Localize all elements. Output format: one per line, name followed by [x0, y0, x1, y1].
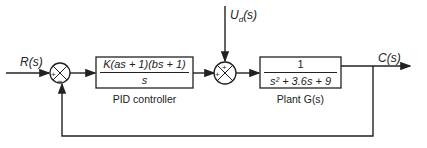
disturbance-label: Ud(s)	[230, 8, 257, 24]
block-diagram: R(s) + − K(as + 1)(bs + 1) s PID control…	[0, 0, 427, 148]
pid-controller-block: K(as + 1)(bs + 1) s PID controller	[96, 57, 193, 105]
controller-denominator: s	[142, 74, 148, 86]
summing-junction-1: + −	[50, 63, 70, 86]
controller-numerator: K(as + 1)(bs + 1)	[103, 58, 186, 70]
plant-denominator: s² + 3.6s + 9	[270, 75, 331, 87]
sum2-plus-left: +	[215, 70, 220, 79]
input-signal: R(s)	[6, 55, 49, 73]
output-label: C(s)	[378, 51, 401, 65]
output-signal: C(s)	[341, 51, 410, 66]
sum1-plus-sign: +	[51, 70, 56, 79]
disturbance-signal: Ud(s)	[225, 6, 257, 61]
plant-numerator: 1	[297, 58, 303, 70]
summing-junction-2: + +	[214, 62, 236, 84]
sum2-plus-top: +	[222, 63, 227, 72]
plant-block: 1 s² + 3.6s + 9 Plant G(s)	[260, 57, 341, 105]
controller-caption: PID controller	[113, 93, 177, 105]
plant-caption: Plant G(s)	[277, 93, 324, 105]
input-label: R(s)	[20, 55, 43, 69]
